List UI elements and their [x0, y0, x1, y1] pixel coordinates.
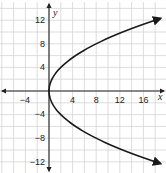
x-tick-label: 16 [138, 95, 148, 105]
y-axis-label: y [52, 7, 58, 18]
y-tick-label: −8 [35, 133, 45, 143]
y-tick-label: −12 [30, 157, 45, 167]
x-tick-label: 4 [70, 95, 75, 105]
y-tick-label: 12 [35, 15, 45, 25]
x-axis-label: x [157, 91, 163, 102]
x-tick-label: −4 [20, 95, 30, 105]
x-tick-label: 8 [94, 95, 99, 105]
y-tick-label: 4 [40, 62, 45, 72]
grid-lines [0, 2, 166, 173]
x-tick-label: 12 [115, 95, 125, 105]
parabola-graph: x y −4 4 8 12 16 12 8 4 −4 −8 −12 [0, 0, 166, 173]
y-tick-label: −4 [35, 109, 45, 119]
y-tick-label: 8 [40, 39, 45, 49]
